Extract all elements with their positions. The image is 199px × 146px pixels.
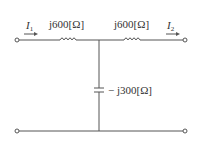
terminal-bottom-left-icon [15,129,19,133]
circuit-diagram: I1 j600[Ω] j600[Ω] I2 − j300[Ω] [0,0,199,146]
i1-arrow-head-icon [34,32,38,36]
inductor-l1-icon [60,38,76,40]
current-i1-label: I1 [26,20,33,33]
terminal-top-right-icon [183,38,187,42]
inductor-l2-icon [124,38,140,40]
current-i2-label: I2 [167,20,174,33]
terminal-bottom-right-icon [183,129,187,133]
i2-arrow-head-icon [176,32,180,36]
impedance-c1-label: − j300[Ω] [108,85,152,96]
terminal-top-left-icon [15,38,19,42]
impedance-l1-label: j600[Ω] [49,19,84,30]
impedance-l2-label: j600[Ω] [114,19,149,30]
